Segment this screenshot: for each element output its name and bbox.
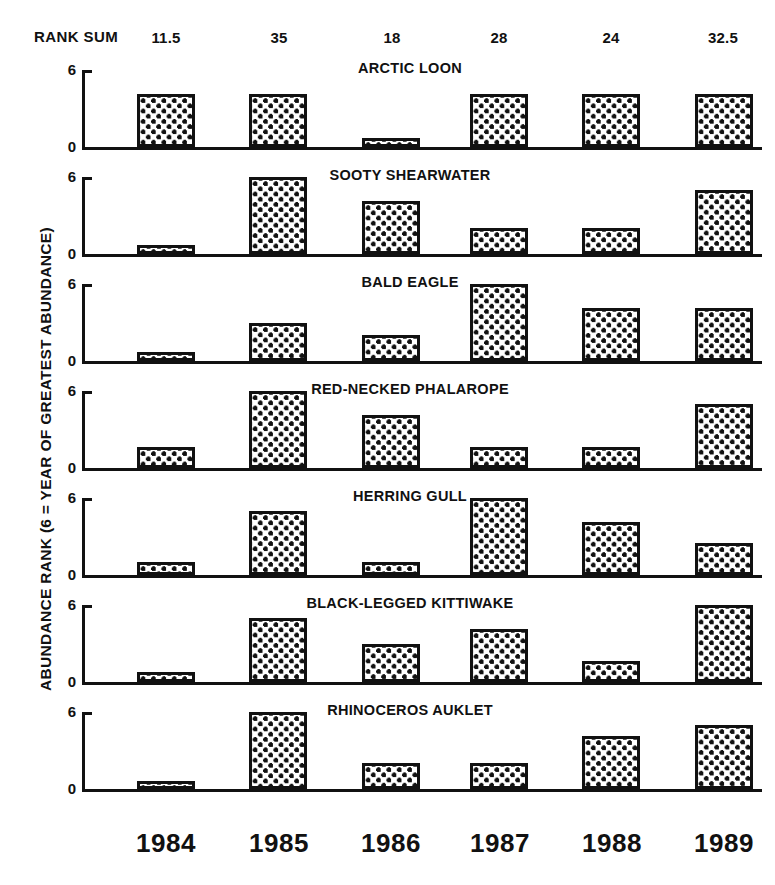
plot-area: 6 0 [82,284,762,364]
bar [695,543,753,575]
bar [137,447,195,468]
bar [137,562,195,575]
y-tick-0: 0 [54,780,76,797]
y-tick-6: 6 [54,275,76,292]
bar [582,94,640,147]
y-tick-6: 6 [54,382,76,399]
bar [695,725,753,789]
panel-arctic-loon: ARCTIC LOON 6 0 [0,60,775,152]
bar [137,245,195,254]
rank-sum-value-1986: 18 [357,29,427,46]
bar [249,323,307,362]
year-label-1987: 1987 [450,828,550,859]
y-tick-0: 0 [54,673,76,690]
bar [249,94,307,147]
y-axis-line [82,498,85,578]
x-axis-line [82,575,762,578]
x-axis-line [82,682,762,685]
bar [362,335,420,361]
bar [695,605,753,682]
rank-sum-value-1985: 35 [244,29,314,46]
bar [470,498,528,575]
plot-area: 6 0 [82,605,762,685]
y-axis-top-tick [82,605,92,608]
y-axis-line [82,605,85,685]
bar [470,763,528,789]
year-label-1986: 1986 [341,828,441,859]
y-axis-top-tick [82,712,92,715]
x-axis-line [82,789,762,792]
y-axis-top-tick [82,498,92,501]
rank-sum-value-1989: 32.5 [688,29,758,46]
bar [362,562,420,575]
plot-area: 6 0 [82,498,762,578]
y-axis-top-tick [82,70,92,73]
bar [249,177,307,254]
panel-black-legged-kittiwake: BLACK-LEGGED KITTIWAKE 6 0 [0,595,775,687]
y-tick-0: 0 [54,566,76,583]
bar [695,404,753,468]
plot-area: 6 0 [82,70,762,150]
panel-sooty-shearwater: SOOTY SHEARWATER 6 0 [0,167,775,259]
bar [362,644,420,683]
bar [137,94,195,147]
bar [582,447,640,468]
y-tick-0: 0 [54,138,76,155]
y-axis-line [82,391,85,471]
y-tick-6: 6 [54,703,76,720]
y-tick-6: 6 [54,61,76,78]
y-axis-top-tick [82,284,92,287]
y-tick-0: 0 [54,459,76,476]
bar [470,284,528,361]
bar [470,447,528,468]
bar [249,618,307,682]
bar [362,415,420,468]
plot-area: 6 0 [82,391,762,471]
y-tick-0: 0 [54,245,76,262]
figure-root: RANK SUM 11.5 35 18 28 24 32.5 ABUNDANCE… [0,0,775,885]
year-label-1984: 1984 [116,828,216,859]
bar [249,391,307,468]
bar [362,763,420,789]
rank-sum-row: RANK SUM 11.5 35 18 28 24 32.5 [0,28,775,50]
bar [582,736,640,789]
y-axis-line [82,70,85,150]
y-tick-0: 0 [54,352,76,369]
bar [470,94,528,147]
bar [582,308,640,361]
panel-rhinoceros-auklet: RHINOCEROS AUKLET 6 0 [0,702,775,794]
y-tick-6: 6 [54,596,76,613]
bar [362,138,420,147]
y-axis-top-tick [82,391,92,394]
panel-bald-eagle: BALD EAGLE 6 0 [0,274,775,366]
y-axis-top-tick [82,177,92,180]
y-axis-line [82,284,85,364]
year-label-1989: 1989 [674,828,774,859]
rank-sum-label: RANK SUM [34,28,118,45]
y-axis-line [82,177,85,257]
bar [470,228,528,254]
rank-sum-value-1988: 24 [576,29,646,46]
bar [695,94,753,147]
x-axis-year-labels: 1984 1985 1986 1987 1988 1989 [0,828,775,862]
x-axis-line [82,147,762,150]
bar [470,629,528,682]
bar [137,672,195,682]
plot-area: 6 0 [82,712,762,792]
plot-area: 6 0 [82,177,762,257]
bar [362,201,420,254]
x-axis-line [82,254,762,257]
bar [582,661,640,682]
bar [582,522,640,575]
bar [695,308,753,361]
rank-sum-value-1987: 28 [464,29,534,46]
x-axis-line [82,361,762,364]
bar [695,190,753,254]
year-label-1988: 1988 [562,828,662,859]
bar [137,781,195,789]
x-axis-line [82,468,762,471]
panel-herring-gull: HERRING GULL 6 0 [0,488,775,580]
y-axis-line [82,712,85,792]
y-tick-6: 6 [54,489,76,506]
panel-red-necked-phalarope: RED-NECKED PHALAROPE 6 0 [0,381,775,473]
